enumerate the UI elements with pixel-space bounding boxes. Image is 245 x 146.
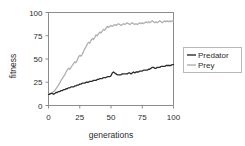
y-tick-label: 100 xyxy=(29,9,43,18)
x-tick-label: 25 xyxy=(75,113,84,122)
y-axis-title: fitness xyxy=(8,54,18,79)
x-tick-label: 100 xyxy=(167,113,181,122)
chart-container: 0255075100 0255075100 fitness generation… xyxy=(0,0,245,146)
y-tick-label: 75 xyxy=(34,32,43,41)
x-tick-label: 50 xyxy=(107,113,116,122)
legend-label-prey: Prey xyxy=(198,61,214,70)
y-tick-label: 50 xyxy=(34,55,43,64)
chart-legend: Predator Prey xyxy=(184,48,242,73)
fitness-vs-generations-line-chart: 0255075100 0255075100 fitness generation… xyxy=(0,0,245,146)
x-axis-title: generations xyxy=(89,130,133,140)
x-tick-label: 75 xyxy=(138,113,147,122)
legend-label-predator: Predator xyxy=(198,51,229,60)
x-tick-label: 0 xyxy=(46,113,51,122)
y-tick-label: 25 xyxy=(34,78,43,87)
y-tick-label: 0 xyxy=(38,102,43,111)
